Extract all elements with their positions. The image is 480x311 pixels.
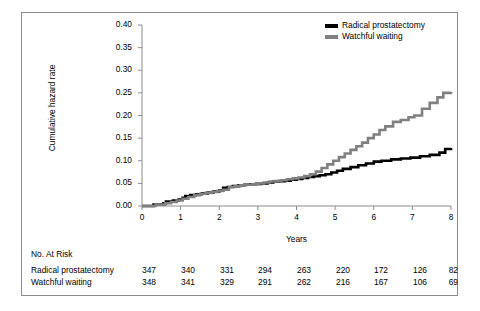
risk-row-label: Watchful waiting (31, 277, 92, 287)
x-tick-label: 5 (327, 212, 343, 222)
y-tick-label: 0.30 (106, 64, 132, 74)
x-tick-label: 0 (134, 212, 150, 222)
x-tick-label: 8 (443, 212, 459, 222)
x-tick-label: 7 (404, 212, 420, 222)
risk-value: 291 (244, 277, 272, 287)
risk-value: 329 (206, 277, 234, 287)
x-tick-label: 1 (173, 212, 189, 222)
risk-value: 294 (244, 265, 272, 275)
risk-value: 331 (206, 265, 234, 275)
risk-value: 220 (322, 265, 350, 275)
risk-value: 341 (167, 277, 195, 287)
risk-value: 69 (430, 277, 458, 287)
y-tick-label: 0.20 (106, 110, 132, 120)
risk-value: 106 (399, 277, 427, 287)
chart-legend: Radical prostatectomy Watchful waiting (325, 20, 425, 42)
cumulative-hazard-chart (22, 13, 459, 237)
risk-row-label: Radical prostatectomy (31, 265, 114, 275)
risk-value: 167 (360, 277, 388, 287)
risk-value: 126 (399, 265, 427, 275)
x-tick-label: 4 (289, 212, 305, 222)
risk-value: 263 (283, 265, 311, 275)
legend-item-radical-prostatectomy: Radical prostatectomy (325, 20, 425, 31)
y-tick-label: 0.25 (106, 87, 132, 97)
series-line-watchful-waiting (142, 92, 451, 206)
y-tick-label: 0.05 (106, 177, 132, 187)
y-axis-title: Cumulative hazard rate (47, 43, 57, 173)
risk-table-title: No. At Risk (31, 249, 72, 259)
x-axis-ticks (142, 206, 451, 210)
risk-value: 82 (430, 265, 458, 275)
x-tick-label: 2 (211, 212, 227, 222)
y-tick-label: 0.15 (106, 132, 132, 142)
y-tick-label: 0.00 (106, 200, 132, 210)
risk-value: 216 (322, 277, 350, 287)
legend-label: Watchful waiting (342, 31, 403, 42)
risk-value: 347 (128, 265, 156, 275)
figure-panel: 0.000.050.100.150.200.250.300.350.40 012… (21, 12, 458, 296)
risk-value: 172 (360, 265, 388, 275)
y-axis-ticks (138, 25, 142, 206)
legend-swatch-icon (325, 35, 338, 39)
x-tick-label: 3 (250, 212, 266, 222)
x-tick-label: 6 (366, 212, 382, 222)
axes (138, 25, 451, 210)
legend-label: Radical prostatectomy (342, 20, 425, 31)
x-axis-title: Years (137, 234, 457, 244)
risk-value: 340 (167, 265, 195, 275)
y-tick-label: 0.10 (106, 155, 132, 165)
risk-value: 262 (283, 277, 311, 287)
legend-item-watchful-waiting: Watchful waiting (325, 31, 425, 42)
table-row: Watchful waiting 348 341 329 291 262 216… (22, 277, 459, 289)
risk-value: 348 (128, 277, 156, 287)
table-row: Radical prostatectomy 347 340 331 294 26… (22, 265, 459, 277)
legend-swatch-icon (325, 24, 338, 28)
data-series-group (142, 92, 451, 206)
y-tick-label: 0.35 (106, 42, 132, 52)
y-tick-label: 0.40 (106, 19, 132, 29)
plot-area: 0.000.050.100.150.200.250.300.350.40 012… (22, 13, 459, 237)
